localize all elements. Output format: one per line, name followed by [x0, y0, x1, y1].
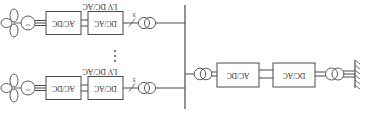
hvdc-converter-2-label: AC/DC [227, 71, 249, 80]
branch-bottom-generator-symbol: ~ [21, 16, 35, 30]
branch-bottom-group-label: LV DC/AC [83, 2, 117, 11]
branch-top-converter-2-label: AC/DC [52, 84, 74, 93]
branch-bottom-converter-1-label: DC/AC [94, 19, 116, 28]
branch-top-converter-1-label: DC/AC [94, 84, 116, 93]
grid-feeder-lines [343, 71, 355, 77]
figure-canvas: DC/AC AC/DC [0, 0, 371, 115]
offshore-station-transformer-symbol [194, 68, 212, 80]
branch-bottom-phase-marker: 3 [133, 12, 136, 19]
branch-top-generator-lines [35, 86, 46, 91]
branch-bottom-wind-turbine-icon [1, 9, 21, 37]
branch-bottom-generator-lines [35, 21, 46, 26]
hvdc-converter-1-label: DC/AC [283, 71, 305, 80]
branch-top-generator-symbol: ~ [21, 81, 35, 95]
branch-top-converter-2: AC/DC [46, 77, 81, 100]
branch-bottom-generator-glyph: ~ [25, 20, 30, 30]
branch-top-dc-link-lines [81, 85, 88, 91]
branch-bottom-dc-link-lines [81, 20, 88, 26]
branch-bottom: 3 LV DC/AC DC/AC AC/DC [1, 2, 185, 37]
transformer-to-converter-lines [315, 72, 326, 76]
diagram-root: DC/AC AC/DC [0, 0, 371, 115]
dc-link-lines [259, 70, 273, 78]
hvdc-converter-2: AC/DC [217, 63, 259, 87]
branch-top-generator-glyph: ~ [25, 85, 30, 95]
branch-top-wind-turbine-icon [1, 74, 21, 102]
branch-top: 3 LV DC/AC DC/AC AC/DC [1, 67, 185, 102]
single-line-diagram: DC/AC AC/DC [0, 0, 371, 115]
hvdc-converter-1: DC/AC [273, 63, 315, 87]
branch-bottom-converter-2-label: AC/DC [52, 19, 74, 28]
branch-bottom-converter-2: AC/DC [46, 12, 81, 35]
branch-top-transformer-symbol [138, 82, 155, 93]
branch-top-group-label: LV DC/AC [83, 67, 117, 76]
onshore-transformer-symbol [326, 68, 345, 80]
grid-source-symbol [355, 60, 360, 89]
branch-top-converter-1: DC/AC [88, 77, 123, 100]
branch-bottom-transformer-symbol [138, 17, 155, 28]
branch-top-phase-marker: 3 [133, 77, 136, 84]
branch-bottom-converter-1: DC/AC [88, 12, 123, 35]
branch-repeat-ellipsis [114, 50, 116, 62]
